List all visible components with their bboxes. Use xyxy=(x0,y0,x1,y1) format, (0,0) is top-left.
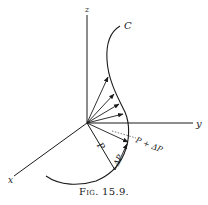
vector-p-plus-label: P + ΔP xyxy=(133,135,164,155)
x-axis-label: x xyxy=(8,175,13,185)
z-axis-label: z xyxy=(84,5,90,14)
vector-4 xyxy=(87,114,123,123)
figure-15-9: z y x C P P + ΔP ΔP Fig. 15.9. xyxy=(0,0,208,205)
vector-curve-diagram: z y x C P P + ΔP ΔP xyxy=(0,0,208,205)
figure-caption: Fig. 15.9. xyxy=(0,186,208,197)
caption-number: 15.9. xyxy=(102,186,129,197)
vector-p-label: P xyxy=(95,140,108,152)
vector-2 xyxy=(87,94,114,123)
caption-prefix: Fig. xyxy=(79,186,99,197)
x-axis xyxy=(14,123,87,176)
vector-1 xyxy=(87,77,108,123)
y-axis-label: y xyxy=(195,118,202,129)
dashed-line xyxy=(112,131,136,138)
curve-label: C xyxy=(124,20,132,31)
